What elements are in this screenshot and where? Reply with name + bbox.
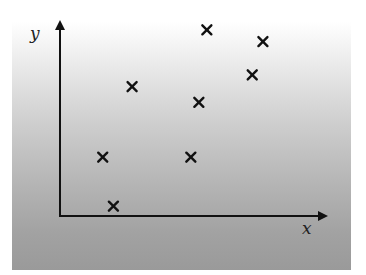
data-point-x-marker <box>98 153 107 162</box>
data-point-x-marker <box>186 153 195 162</box>
data-point-x-marker <box>202 25 211 34</box>
x-axis-label: x <box>302 218 312 238</box>
data-point-x-marker <box>248 70 257 79</box>
data-point-x-marker <box>128 82 137 91</box>
data-point-x-marker <box>109 202 118 211</box>
scatter-figure: y x <box>0 0 366 275</box>
y-axis-label: y <box>29 23 40 43</box>
scatter-plot: y x <box>0 0 366 275</box>
data-point-x-marker <box>194 98 203 107</box>
scatter-markers <box>98 25 267 210</box>
data-point-x-marker <box>258 37 267 46</box>
